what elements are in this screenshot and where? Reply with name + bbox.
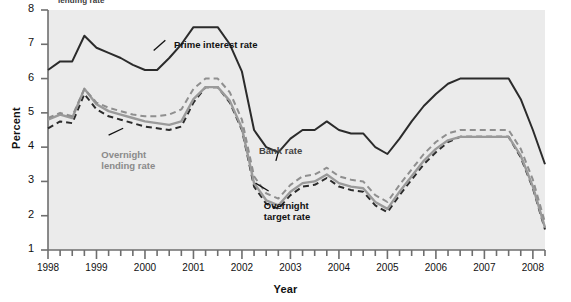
x-axis-tick-label: 2007 [461, 262, 507, 273]
annotation-line: lending rate [101, 160, 155, 171]
x-axis-tick-label: 2002 [219, 262, 265, 273]
x-axis-tick-label: 1999 [73, 262, 119, 273]
x-axis-tick-label: 1998 [25, 262, 71, 273]
x-axis-tick-label: 2000 [122, 262, 168, 273]
y-axis-tick-label: 1 [12, 242, 34, 254]
overnight-target-rate-label: Overnighttarget rate [264, 200, 310, 222]
annotation-line: target rate [264, 211, 310, 222]
y-axis-tick-label: 7 [12, 36, 34, 48]
annotation-line: Overnight [264, 200, 310, 211]
y-axis-tick-label: 4 [12, 139, 34, 151]
x-axis-tick-label: 2005 [364, 262, 410, 273]
y-axis-tick-label: 3 [12, 173, 34, 185]
y-axis-tick-label: 8 [12, 2, 34, 14]
y-axis-tick-label: 6 [12, 71, 34, 83]
x-axis-tick-label: 2008 [510, 262, 556, 273]
x-axis-tick-label: 2003 [267, 262, 313, 273]
prime-interest-rate-label: Prime interest rate [174, 39, 257, 50]
x-axis-tick-label: 2006 [413, 262, 459, 273]
cut-off-legend-text: lending rate [58, 0, 105, 5]
annotation-line: Bank rate [259, 145, 302, 156]
overnight-lending-rate-label: Overnightlending rate [101, 149, 155, 171]
y-axis-tick-label: 5 [12, 105, 34, 117]
x-axis-tick-label: 2001 [170, 262, 216, 273]
y-axis-tick-label: 2 [12, 208, 34, 220]
x-axis-title: Year [0, 283, 571, 295]
bank-rate-label: Bank rate [259, 145, 302, 156]
annotation-line: Overnight [101, 149, 155, 160]
interest-rate-chart-figure: lending rate Percent Year 12345678 19981… [0, 0, 571, 302]
annotation-line: Prime interest rate [174, 39, 257, 50]
x-axis-tick-label: 2004 [316, 262, 362, 273]
